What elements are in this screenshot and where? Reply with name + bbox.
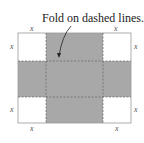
- x-label: x: [134, 42, 138, 51]
- shaded-horizontal: [18, 61, 131, 97]
- x-label: x: [134, 105, 138, 114]
- x-label: x: [114, 24, 118, 33]
- x-label: x: [30, 24, 34, 33]
- x-label: x: [10, 42, 14, 51]
- x-label: x: [30, 124, 34, 133]
- x-label: x: [115, 124, 119, 133]
- x-label: x: [10, 105, 14, 114]
- fold-annotation: Fold on dashed lines.: [42, 11, 144, 26]
